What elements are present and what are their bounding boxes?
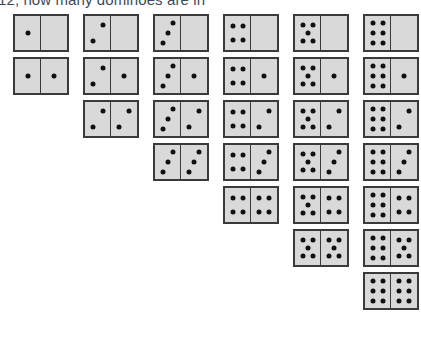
pip-dot	[380, 107, 385, 112]
domino-half-right	[391, 59, 417, 93]
pip-dot	[305, 203, 310, 208]
domino-half-right	[321, 231, 347, 265]
pip-dot	[370, 169, 375, 174]
domino-tile[interactable]	[363, 14, 419, 52]
domino-half-left	[365, 145, 391, 179]
pip-dot	[230, 195, 235, 200]
domino-row	[0, 14, 419, 52]
domino-tile[interactable]	[363, 229, 419, 267]
domino-row	[363, 272, 419, 310]
pip-dot	[370, 236, 375, 241]
pip-dot	[240, 124, 245, 129]
pip-dot	[380, 160, 385, 165]
domino-tile[interactable]	[293, 229, 349, 267]
domino-half-left	[85, 59, 111, 93]
domino-half-left	[365, 274, 391, 308]
pip-dot	[396, 195, 401, 200]
pip-dot	[230, 81, 235, 86]
domino-tile[interactable]	[363, 100, 419, 138]
pip-dot	[305, 246, 310, 251]
pip-dot	[100, 65, 105, 70]
domino-half-right	[111, 102, 137, 136]
domino-tile[interactable]	[293, 14, 349, 52]
domino-tile[interactable]	[223, 143, 279, 181]
pip-dot	[396, 125, 401, 130]
domino-tile[interactable]	[223, 186, 279, 224]
pip-dot	[370, 279, 375, 284]
pip-dot	[300, 168, 305, 173]
pip-dot	[310, 82, 315, 87]
domino-tile[interactable]	[223, 57, 279, 95]
domino-row	[83, 100, 419, 138]
domino-tile[interactable]	[293, 143, 349, 181]
domino-tile[interactable]	[153, 57, 209, 95]
pip-dot	[300, 237, 305, 242]
pip-dot	[267, 150, 272, 155]
domino-tile[interactable]	[83, 57, 139, 95]
pip-dot	[300, 254, 305, 259]
pip-dot	[370, 212, 375, 217]
pip-dot	[380, 31, 385, 36]
domino-half-right	[391, 145, 417, 179]
domino-tile[interactable]	[153, 100, 209, 138]
pip-dot	[337, 237, 342, 242]
domino-tile[interactable]	[13, 57, 69, 95]
pip-dot	[310, 22, 315, 27]
pip-dot	[230, 38, 235, 43]
pip-dot	[370, 298, 375, 303]
domino-tile[interactable]	[293, 100, 349, 138]
domino-half-right	[181, 102, 207, 136]
domino-tile[interactable]	[13, 14, 69, 52]
pip-dot	[262, 74, 267, 79]
pip-dot	[396, 289, 401, 294]
domino-tile[interactable]	[153, 143, 209, 181]
domino-tile[interactable]	[293, 57, 349, 95]
domino-tile[interactable]	[223, 100, 279, 138]
domino-half-right	[41, 16, 67, 50]
pip-dot	[402, 160, 407, 165]
pip-dot	[165, 31, 170, 36]
pip-dot	[230, 109, 235, 114]
pip-dot	[396, 210, 401, 215]
pip-dot	[380, 203, 385, 208]
domino-tile[interactable]	[363, 272, 419, 310]
pip-dot	[192, 74, 197, 79]
pip-dot	[380, 289, 385, 294]
pip-dot	[380, 279, 385, 284]
pip-dot	[370, 107, 375, 112]
pip-dot	[170, 21, 175, 26]
domino-half-left	[365, 102, 391, 136]
domino-tile[interactable]	[83, 14, 139, 52]
domino-tile[interactable]	[363, 143, 419, 181]
domino-tile[interactable]	[83, 100, 139, 138]
domino-half-left	[295, 231, 321, 265]
pip-dot	[380, 126, 385, 131]
pip-dot	[230, 167, 235, 172]
domino-half-right	[321, 145, 347, 179]
domino-half-left	[225, 102, 251, 136]
pip-dot	[256, 125, 261, 130]
domino-tile[interactable]	[363, 57, 419, 95]
pip-dot	[160, 83, 165, 88]
domino-half-left	[85, 102, 111, 136]
pip-dot	[256, 195, 261, 200]
domino-tile[interactable]	[223, 14, 279, 52]
domino-half-right	[391, 188, 417, 222]
pip-dot	[380, 236, 385, 241]
domino-tile[interactable]	[363, 186, 419, 224]
pip-dot	[380, 83, 385, 88]
domino-half-left	[295, 16, 321, 50]
pip-dot	[100, 22, 105, 27]
domino-tile[interactable]	[293, 186, 349, 224]
pip-dot	[370, 203, 375, 208]
pip-dot	[165, 74, 170, 79]
pip-dot	[240, 195, 245, 200]
pip-dot	[310, 125, 315, 130]
pip-dot	[230, 152, 235, 157]
pip-dot	[380, 74, 385, 79]
domino-tile[interactable]	[153, 14, 209, 52]
pip-dot	[380, 169, 385, 174]
pip-dot	[305, 117, 310, 122]
domino-half-right	[111, 59, 137, 93]
pip-dot	[305, 160, 310, 165]
